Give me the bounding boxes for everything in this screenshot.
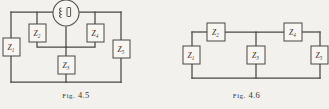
figure-4-5-caption: Fig. 4.5 [0,90,156,100]
figure-4-5-caption-prefix: Fig. [62,92,75,100]
component-z4: Z4 [284,23,302,41]
component-z3: Z3 [247,46,265,64]
figure-4-6-caption-number: 4.6 [248,90,260,100]
component-z3: Z3 [58,56,75,74]
figure-4-5-caption-number: 4.5 [78,90,90,100]
component-z4: Z4 [87,24,104,42]
component-z1: Z1 [3,38,20,56]
figure-4-6-caption: Fig. 4.6 [162,90,329,100]
source-circle-icon [53,0,79,26]
component-z2: Z2 [29,24,46,42]
component-z2: Z2 [207,23,225,41]
circuit-diagram-4-6: Z1 Z2 Z3 Z4 Z5 [160,0,329,90]
figure-4-6: Z1 Z2 Z3 Z4 Z5 Fig. [160,0,329,109]
component-z1: Z1 [183,46,200,64]
component-z5: Z5 [113,40,130,58]
figure-pair-page: Z1 Z2 Z3 Z4 Z5 Fig. [0,0,329,109]
component-z5: Z5 [311,46,328,64]
figure-4-5: Z1 Z2 Z3 Z4 Z5 Fig. [0,0,160,109]
circuit-diagram-4-5: Z1 Z2 Z3 Z4 Z5 [0,0,160,90]
figure-4-6-caption-prefix: Fig. [233,92,246,100]
